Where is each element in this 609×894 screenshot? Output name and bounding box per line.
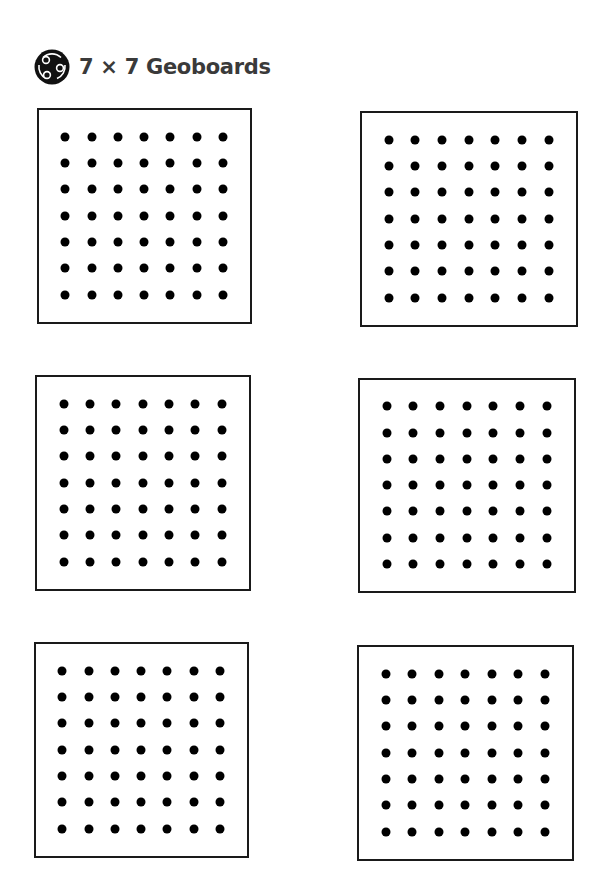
peg-dot (381, 827, 390, 836)
peg-dot (491, 188, 500, 197)
peg-dot (140, 290, 149, 299)
peg-grid (39, 110, 250, 322)
peg-dot (434, 827, 443, 836)
peg-dot (138, 452, 147, 461)
peg-dot (540, 722, 549, 731)
peg-dot (87, 158, 96, 167)
peg-dot (409, 454, 418, 463)
peg-dot (84, 745, 93, 754)
peg-dot (489, 559, 498, 568)
peg-dot (515, 428, 524, 437)
peg-dot (218, 264, 227, 273)
peg-dot (163, 772, 172, 781)
peg-dot (84, 772, 93, 781)
peg-dot (382, 481, 391, 490)
peg-dot (218, 290, 227, 299)
peg-dot (110, 824, 119, 833)
peg-dot (542, 507, 551, 516)
peg-dot (189, 692, 198, 701)
peg-dot (436, 402, 445, 411)
peg-dot (540, 775, 549, 784)
peg-dot (59, 478, 68, 487)
peg-dot (59, 399, 68, 408)
peg-dot (515, 454, 524, 463)
peg-dot (381, 669, 390, 678)
peg-dot (192, 185, 201, 194)
peg-dot (138, 478, 147, 487)
peg-dot (59, 452, 68, 461)
peg-dot (165, 425, 174, 434)
peg-dot (191, 531, 200, 540)
peg-dot (411, 188, 420, 197)
peg-dot (165, 478, 174, 487)
peg-dot (544, 188, 553, 197)
peg-dot (464, 188, 473, 197)
peg-grid (362, 113, 576, 325)
peg-dot (140, 185, 149, 194)
geoboard-5 (34, 642, 249, 858)
peg-dot (382, 454, 391, 463)
peg-dot (85, 505, 94, 514)
peg-dot (85, 425, 94, 434)
peg-dot (381, 801, 390, 810)
peg-dot (436, 507, 445, 516)
peg-dot (84, 719, 93, 728)
peg-dot (113, 211, 122, 220)
peg-dot (192, 290, 201, 299)
peg-dot (166, 290, 175, 299)
peg-dot (411, 267, 420, 276)
peg-dot (409, 507, 418, 516)
peg-dot (436, 428, 445, 437)
peg-dot (491, 241, 500, 250)
peg-dot (434, 748, 443, 757)
peg-dot (487, 695, 496, 704)
peg-dot (517, 161, 526, 170)
peg-dot (85, 399, 94, 408)
peg-dot (542, 428, 551, 437)
peg-dot (85, 531, 94, 540)
peg-dot (517, 293, 526, 302)
peg-dot (542, 481, 551, 490)
peg-dot (464, 214, 473, 223)
peg-dot (540, 669, 549, 678)
peg-dot (113, 158, 122, 167)
peg-dot (58, 719, 67, 728)
peg-dot (191, 452, 200, 461)
peg-dot (540, 801, 549, 810)
peg-dot (542, 533, 551, 542)
peg-dot (85, 452, 94, 461)
peg-dot (166, 211, 175, 220)
peg-dot (113, 264, 122, 273)
peg-dot (517, 267, 526, 276)
peg-dot (384, 161, 393, 170)
peg-dot (218, 211, 227, 220)
peg-dot (461, 695, 470, 704)
peg-dot (462, 454, 471, 463)
peg-dot (58, 692, 67, 701)
peg-dot (163, 692, 172, 701)
peg-dot (163, 745, 172, 754)
peg-dot (113, 290, 122, 299)
peg-dot (542, 454, 551, 463)
peg-dot (165, 399, 174, 408)
peg-dot (87, 132, 96, 141)
peg-dot (544, 161, 553, 170)
peg-dot (384, 241, 393, 250)
peg-dot (464, 267, 473, 276)
peg-grid (37, 377, 249, 589)
peg-dot (381, 722, 390, 731)
peg-dot (140, 264, 149, 273)
peg-dot (215, 798, 224, 807)
peg-dot (408, 722, 417, 731)
peg-dot (166, 264, 175, 273)
peg-dot (514, 748, 523, 757)
peg-dot (137, 798, 146, 807)
peg-dot (87, 264, 96, 273)
peg-dot (218, 158, 227, 167)
peg-dot (438, 135, 447, 144)
peg-dot (165, 531, 174, 540)
peg-dot (192, 264, 201, 273)
peg-dot (438, 293, 447, 302)
peg-dot (87, 290, 96, 299)
peg-dot (517, 241, 526, 250)
